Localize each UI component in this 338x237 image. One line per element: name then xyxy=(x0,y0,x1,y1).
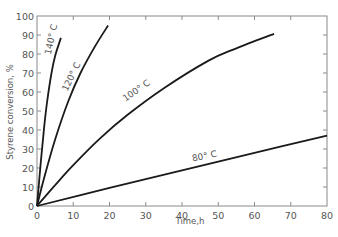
y-tick-label: 20 xyxy=(22,163,34,174)
x-tick-label: 80 xyxy=(321,210,333,221)
y-tick-label: 100 xyxy=(16,11,34,22)
y-tick-label: 70 xyxy=(22,68,34,79)
x-tick-label: 10 xyxy=(67,210,79,221)
plot-border xyxy=(37,16,327,206)
curve-140c xyxy=(37,38,61,206)
curves xyxy=(37,26,327,207)
y-tick-label: 40 xyxy=(22,125,34,136)
y-axis-label: Styrene conversion, % xyxy=(5,64,15,160)
plot-frame xyxy=(37,16,327,206)
y-tick-label: 0 xyxy=(28,201,34,212)
y-tick-label: 30 xyxy=(22,144,34,155)
y-axis-ticks: 0102030405060708090100 xyxy=(16,11,327,212)
y-tick-label: 90 xyxy=(22,30,34,41)
x-axis-label: Time,h xyxy=(175,216,205,226)
x-tick-label: 0 xyxy=(34,210,40,221)
x-tick-label: 60 xyxy=(248,210,260,221)
x-tick-label: 20 xyxy=(103,210,115,221)
curve-label: 80° C xyxy=(191,149,218,164)
y-tick-label: 10 xyxy=(22,182,34,193)
chart: 01020304050607080 0102030405060708090100… xyxy=(0,0,338,237)
x-tick-label: 30 xyxy=(140,210,152,221)
curve-100c xyxy=(37,34,274,206)
curve-labels: 140° C120° C100° C80° C xyxy=(43,23,218,163)
x-tick-label: 70 xyxy=(285,210,297,221)
x-axis-ticks: 01020304050607080 xyxy=(34,16,333,221)
x-tick-label: 50 xyxy=(212,210,224,221)
y-tick-label: 80 xyxy=(22,49,34,60)
y-tick-label: 50 xyxy=(22,106,34,117)
y-tick-label: 60 xyxy=(22,87,34,98)
curve-80c xyxy=(37,136,327,206)
